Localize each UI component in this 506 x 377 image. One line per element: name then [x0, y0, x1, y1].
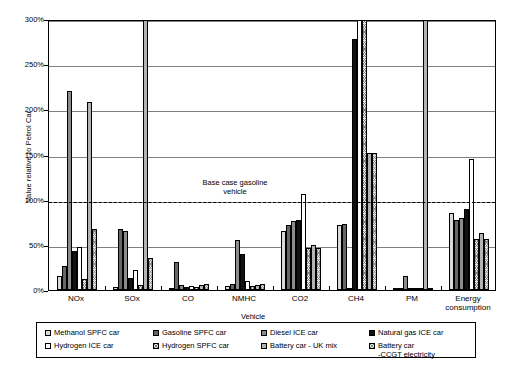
legend-item[interactable]: Natural gas ICE car — [369, 329, 443, 338]
bar — [347, 288, 352, 290]
bar — [418, 288, 423, 290]
bar — [413, 288, 418, 290]
y-tick-label: 50% — [0, 241, 44, 250]
bar — [428, 288, 433, 290]
bar — [403, 276, 408, 290]
x-group-separator — [329, 286, 330, 290]
legend-swatch-icon — [261, 330, 267, 336]
legend-item[interactable]: Battery car - UK mix — [261, 342, 337, 351]
base-case-annotation: Base case gasoline vehicle — [160, 178, 310, 196]
bar — [240, 254, 245, 290]
bar — [449, 213, 454, 290]
bar — [225, 286, 230, 290]
bar — [230, 284, 235, 290]
bar — [118, 229, 123, 290]
x-group-separator — [273, 286, 274, 290]
x-group-separator — [161, 286, 162, 290]
bar — [316, 248, 321, 290]
legend-swatch-icon — [45, 343, 51, 349]
x-group-separator — [385, 286, 386, 290]
bar — [184, 287, 189, 290]
bar — [423, 20, 428, 290]
bar — [484, 239, 489, 290]
bar — [459, 218, 464, 290]
bar — [291, 221, 296, 290]
legend-item[interactable]: Battery car -CCGT electricity — [369, 342, 435, 359]
x-category-label: NOx — [48, 294, 104, 303]
bar — [474, 239, 479, 290]
bar — [199, 285, 204, 290]
legend-swatch-icon — [369, 343, 375, 349]
bar — [337, 225, 342, 290]
bar — [296, 220, 301, 290]
legend-swatch-icon — [153, 330, 159, 336]
bar — [113, 287, 118, 290]
bar — [255, 285, 260, 290]
bar — [372, 153, 377, 290]
legend-swatch-icon — [369, 330, 375, 336]
x-group-separator — [217, 286, 218, 290]
legend: Methanol SPFC carGasoline SPFC carDiesel… — [36, 322, 476, 358]
y-tick-label: 200% — [0, 105, 44, 114]
y-tick-mark — [44, 291, 48, 292]
bar — [72, 251, 77, 290]
bar — [82, 279, 87, 290]
legend-item-label: Gasoline SPFC car — [162, 329, 226, 338]
gridline — [49, 21, 495, 22]
legend-item[interactable]: Methanol SPFC car — [45, 329, 119, 338]
bar — [301, 194, 306, 290]
bar — [469, 159, 474, 290]
x-group-separator — [105, 286, 106, 290]
legend-swatch-icon — [153, 343, 159, 349]
legend-swatch-icon — [261, 343, 267, 349]
legend-item-label: Hydrogen ICE car — [54, 342, 114, 351]
bar — [189, 286, 194, 290]
legend-item-label: Battery car - UK mix — [270, 342, 337, 351]
bar — [260, 284, 265, 290]
gridline — [49, 111, 495, 112]
y-tick-label: 250% — [0, 60, 44, 69]
bar — [311, 245, 316, 290]
bar — [357, 20, 362, 290]
bar — [67, 91, 72, 290]
bar — [245, 281, 250, 290]
bar — [57, 276, 62, 290]
bar — [479, 233, 484, 290]
bar — [77, 247, 82, 290]
bar — [179, 285, 184, 290]
bar — [393, 288, 398, 290]
y-tick-label: 150% — [0, 151, 44, 160]
bar — [342, 224, 347, 290]
legend-item[interactable]: Hydrogen SPFC car — [153, 342, 229, 351]
legend-item[interactable]: Diesel ICE car — [261, 329, 318, 338]
bar — [398, 288, 403, 290]
bar — [148, 258, 153, 290]
legend-item-label: Diesel ICE car — [270, 329, 318, 338]
legend-item-label: Methanol SPFC car — [54, 329, 119, 338]
bar — [143, 20, 148, 290]
x-category-label: CO2 — [272, 294, 328, 303]
bar — [133, 270, 138, 290]
x-category-label: CO — [160, 294, 216, 303]
x-category-label: SOx — [104, 294, 160, 303]
legend-item-label: Battery car -CCGT electricity — [378, 342, 435, 359]
bar — [464, 209, 469, 290]
bar — [92, 229, 97, 290]
legend-item-label: Hydrogen SPFC car — [162, 342, 229, 351]
legend-item[interactable]: Hydrogen ICE car — [45, 342, 114, 351]
y-tick-label: 0% — [0, 286, 44, 295]
bar — [194, 287, 199, 290]
bar — [454, 220, 459, 290]
x-category-label: CH4 — [328, 294, 384, 303]
bar — [128, 278, 133, 290]
bar — [169, 288, 174, 290]
x-category-label: PM — [384, 294, 440, 303]
bar — [408, 288, 413, 290]
bar — [204, 284, 209, 290]
bar — [87, 102, 92, 290]
bar — [62, 266, 67, 290]
x-group-separator — [441, 286, 442, 290]
bar — [281, 231, 286, 290]
legend-item[interactable]: Gasoline SPFC car — [153, 329, 226, 338]
x-category-label: Energy consumption — [440, 294, 496, 312]
